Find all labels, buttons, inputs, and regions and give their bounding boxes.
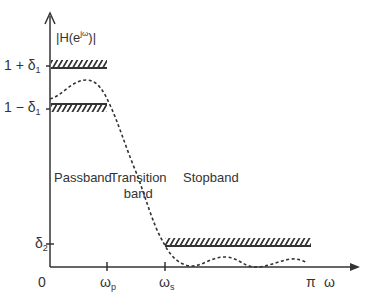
x-tick-zero: 0 xyxy=(38,274,46,290)
tick-sub: 2 xyxy=(43,243,48,253)
filter-spec-diagram: |H(ejω)| 1 + δ1 1 − δ1 δ2 0 ωp ωs π ω Pa… xyxy=(0,0,373,304)
tick-sub: 1 xyxy=(36,65,41,75)
diagram-canvas xyxy=(0,0,373,304)
transition-label-line2: band xyxy=(110,186,167,202)
x-tick-pi: π xyxy=(306,274,316,290)
y-tick-delta2: δ2 xyxy=(35,235,48,253)
transition-band-label: Transition band xyxy=(110,170,167,202)
y-axis-label: |H(ejω)| xyxy=(56,29,96,45)
tick-base: 0 xyxy=(38,274,46,290)
stopband-label: Stopband xyxy=(183,170,239,186)
transition-label-line1: Transition xyxy=(110,170,167,186)
tick-base: δ xyxy=(35,235,43,251)
y-tick-1-plus-delta1: 1 + δ1 xyxy=(4,57,41,75)
y-axis-label-prefix: |H(e xyxy=(56,30,80,45)
x-axis-arrow-icon xyxy=(350,263,360,271)
y-axis-label-suffix: )| xyxy=(88,30,96,45)
passband-lower-limit xyxy=(51,104,107,112)
x-tick-omega-p: ωp xyxy=(100,274,116,292)
tick-sub: 1 xyxy=(36,107,41,117)
x-tick-omega-s: ωs xyxy=(159,274,174,292)
passband-label: Passband xyxy=(54,170,112,186)
tick-base: π xyxy=(306,274,316,290)
x-axis xyxy=(50,263,360,271)
stopband-upper-limit xyxy=(165,238,311,246)
y-tick-1-minus-delta1: 1 − δ1 xyxy=(4,99,41,117)
y-axis xyxy=(45,13,55,267)
tick-sub: p xyxy=(111,282,116,292)
x-axis-label: ω xyxy=(324,274,335,290)
tick-sub: s xyxy=(170,282,175,292)
tick-base: 1 − δ xyxy=(4,99,36,115)
tick-base: 1 + δ xyxy=(4,57,36,73)
x-axis-label-text: ω xyxy=(324,274,335,290)
passband-upper-limit xyxy=(51,60,107,68)
tick-base: ω xyxy=(100,274,111,290)
tick-base: ω xyxy=(159,274,170,290)
